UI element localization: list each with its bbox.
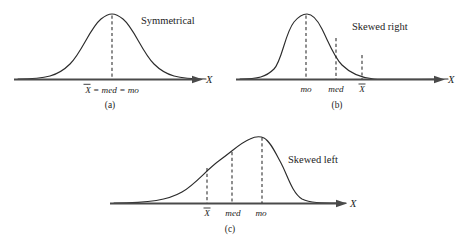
marker-label-c-mean-text: X: [203, 208, 210, 218]
shape-label-a: Symmetrical: [141, 15, 195, 26]
axis-arrowhead-c: [336, 200, 347, 207]
curve-skewed-left: [114, 137, 346, 203]
axis-label-c: X: [349, 198, 357, 209]
axis-label-b: X: [447, 74, 455, 85]
shape-label-c: Skewed left: [288, 154, 338, 165]
marker-label-c-mean: X: [203, 208, 210, 218]
marker-label-b-mean: X: [358, 84, 365, 94]
marker-label-c-median: med: [225, 208, 241, 218]
marker-label-b-mode: mo: [300, 84, 312, 94]
marker-label-b-median: med: [328, 84, 344, 94]
panel-c: X Skewed left X med mo (c): [110, 137, 357, 235]
panel-caption-a: (a): [105, 100, 115, 111]
marker-label-b-mean-text: X: [358, 84, 365, 94]
shape-label-b: Skewed right: [352, 21, 408, 32]
panel-caption-b: (b): [332, 100, 343, 111]
distribution-figure: X Symmetrical X = med = mo (a) X Skewed …: [0, 0, 461, 242]
panel-a: X Symmetrical X = med = mo (a): [14, 14, 213, 111]
curve-skewed-right: [240, 14, 448, 79]
panel-b: X Skewed right mo med X (b): [236, 14, 455, 111]
marker-label-c-mode: mo: [255, 208, 267, 218]
panel-caption-c: (c): [225, 224, 235, 235]
center-stat-label-a: X = med = mo: [84, 84, 140, 95]
center-label-a-text: X = med = mo: [84, 85, 139, 95]
axis-arrowhead-b: [434, 76, 445, 83]
axis-arrowhead-a: [192, 76, 203, 83]
axis-label-a: X: [205, 74, 213, 85]
